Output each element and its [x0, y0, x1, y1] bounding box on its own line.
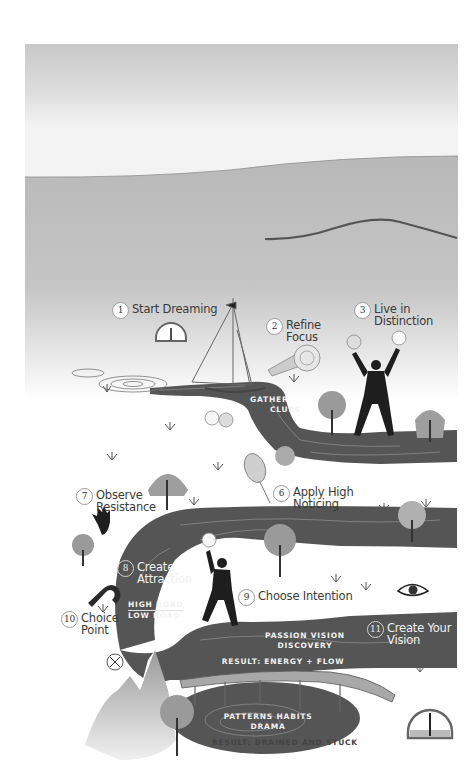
step-6-apply-high-noticing: 6 Apply HighNoticing: [273, 485, 354, 510]
step-label-line2: Noticing: [293, 497, 339, 511]
gauge-icon-bottom: [408, 710, 452, 738]
step-label: ObserveResistance: [96, 488, 156, 513]
step-label: Apply HighNoticing: [293, 485, 354, 510]
step-label: Live inDistinction: [374, 302, 433, 327]
step-number-badge: 9: [238, 589, 255, 606]
step-label: Choose Intention: [258, 589, 353, 602]
step-8-create-attraction: 8 CreateAttraction: [117, 560, 192, 585]
step-10-choice-point: 10 ChoicePoint: [61, 611, 119, 636]
step-label: CreateAttraction: [137, 560, 192, 585]
step-number-badge: 6: [273, 485, 290, 502]
low-road-text: LOW ROAD: [128, 611, 183, 621]
step-number-badge: 1: [112, 302, 129, 319]
step-label-line2: Focus: [286, 330, 318, 344]
gather-text: GATHER: [250, 395, 301, 405]
step-number-badge: 2: [266, 318, 283, 335]
passion-vision-text: PASSION VISION: [255, 631, 355, 641]
patterns-habits-drama-text: PATTERNS HABITS DRAMA: [218, 712, 318, 732]
high-low-road-text: HIGH ROAD LOW ROAD: [128, 600, 183, 621]
drama-text: DRAMA: [218, 722, 318, 732]
step-label: Create YourVision: [387, 621, 451, 646]
result-drained-stuck-text: RESULT: DRAINED AND STUCK: [210, 738, 360, 748]
gather-clues-text: GATHER CLUES: [250, 395, 301, 415]
step-9-choose-intention: 9 Choose Intention: [238, 589, 353, 606]
compass-icon: [107, 654, 123, 670]
step-number-badge: 10: [61, 611, 78, 628]
result-energy-flow-text: RESULT: ENERGY + FLOW: [218, 657, 348, 667]
balloon-icon: [240, 450, 270, 503]
step-label-line2: Point: [81, 623, 109, 637]
step-11-create-your-vision: 11 Create YourVision: [367, 621, 451, 646]
step-label-line2: Distinction: [374, 314, 433, 328]
step-3-live-in-distinction: 3 Live inDistinction: [354, 302, 433, 327]
step-2-refine-focus: 2 RefineFocus: [266, 318, 321, 343]
step-number-badge: 8: [117, 560, 134, 577]
person-figure-icon-intention: [202, 550, 238, 626]
eye-icon: [398, 585, 428, 596]
discovery-text: DISCOVERY: [255, 641, 355, 651]
step-label: RefineFocus: [286, 318, 321, 343]
step-number-badge: 3: [354, 302, 371, 319]
step-number-badge: 11: [367, 621, 384, 638]
step-number-badge: 7: [76, 488, 93, 505]
clues-text: CLUES: [250, 405, 301, 415]
passion-vision-discovery-text: PASSION VISION DISCOVERY: [255, 631, 355, 651]
step-label-line2: Resistance: [96, 500, 156, 514]
step-label-line2: Vision: [387, 633, 420, 647]
patterns-habits-text: PATTERNS HABITS: [218, 712, 318, 722]
step-label-line2: Attraction: [137, 572, 192, 586]
step-label: ChoicePoint: [81, 611, 119, 636]
high-road-text: HIGH ROAD: [128, 600, 183, 611]
step-1-start-dreaming: 1 Start Dreaming: [112, 302, 217, 319]
step-7-observe-resistance: 7 ObserveResistance: [76, 488, 156, 513]
step-label: Start Dreaming: [132, 302, 217, 315]
